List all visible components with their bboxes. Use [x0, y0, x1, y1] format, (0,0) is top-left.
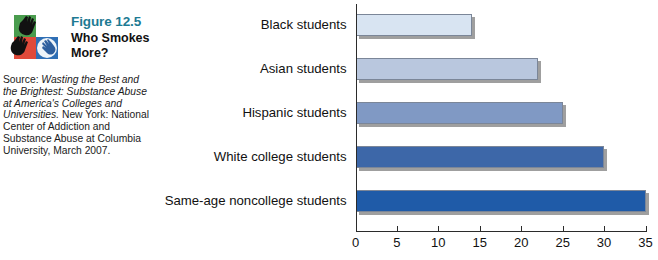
y-axis-line	[356, 4, 357, 231]
x-axis-tick	[521, 226, 522, 232]
bar	[356, 102, 563, 124]
x-axis-tick	[563, 226, 564, 232]
bar	[356, 14, 472, 36]
x-axis-tick-label: 5	[382, 236, 412, 250]
x-axis-line	[356, 231, 647, 232]
x-axis-tick	[646, 226, 647, 232]
x-axis-tick-label: 10	[423, 236, 453, 250]
x-axis-tick-label: 20	[506, 236, 536, 250]
bar	[356, 58, 538, 80]
bar	[356, 190, 646, 212]
category-label: Asian students	[0, 62, 347, 76]
x-axis-tick	[438, 226, 439, 232]
x-axis-tick-label: 0	[341, 236, 371, 250]
bar-chart: Black studentsAsian studentsHispanic stu…	[0, 0, 658, 260]
category-label: Same-age noncollege students	[0, 194, 347, 208]
category-label: Hispanic students	[0, 106, 347, 120]
category-label: White college students	[0, 150, 347, 164]
category-label: Black students	[0, 18, 347, 32]
x-axis-tick-label: 25	[548, 236, 578, 250]
x-axis-tick	[604, 226, 605, 232]
x-axis-tick-label: 30	[589, 236, 619, 250]
x-axis-tick	[397, 226, 398, 232]
x-axis-tick	[356, 226, 357, 232]
x-axis-tick	[480, 226, 481, 232]
figure-panel: Figure 12.5 Who Smokes More? Source: Was…	[0, 0, 658, 260]
x-axis-tick-label: 15	[465, 236, 495, 250]
bar	[356, 146, 605, 168]
x-axis-tick-label: 35	[631, 236, 658, 250]
